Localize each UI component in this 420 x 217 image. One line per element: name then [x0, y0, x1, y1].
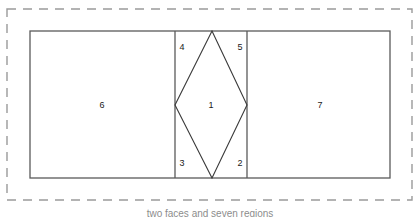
- region-label-1: 1: [208, 100, 213, 110]
- diagram-canvas: 6 4 5 1 3 2 7: [0, 0, 420, 217]
- region-label-6: 6: [99, 100, 104, 110]
- region-label-4: 4: [179, 42, 184, 52]
- region-label-3: 3: [179, 158, 184, 168]
- region-label-2: 2: [237, 158, 242, 168]
- figure-container: 6 4 5 1 3 2 7 two faces and seven region…: [0, 0, 420, 217]
- region-label-7: 7: [317, 100, 322, 110]
- region-label-5: 5: [237, 42, 242, 52]
